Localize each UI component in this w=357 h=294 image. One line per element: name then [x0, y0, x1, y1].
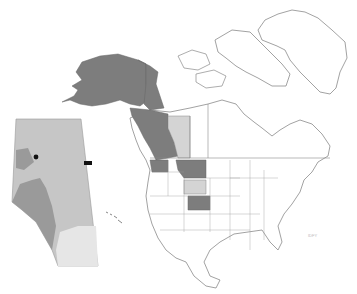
arctic-island-small: [178, 50, 210, 70]
hawaii: [106, 212, 122, 223]
region-washington: [150, 160, 168, 172]
alberta-inset: [12, 119, 98, 266]
north-america-map: [0, 0, 357, 294]
inset-point: [84, 161, 92, 165]
inset-point: [34, 155, 39, 160]
region-wyoming: [184, 180, 206, 194]
arctic-island-small: [196, 70, 226, 88]
region-alaska: [62, 54, 148, 106]
region-colorado: [188, 196, 210, 210]
corner-label: IDFY: [308, 233, 317, 238]
